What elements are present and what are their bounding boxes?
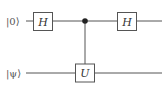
h-gate-2-label: H <box>121 16 132 29</box>
qubit-label-0: |0⟩ <box>6 16 20 28</box>
quantum-circuit: |0⟩ |ψ⟩ H U H <box>0 0 166 87</box>
h-gate-2: H <box>118 13 137 31</box>
qubit-label-1: |ψ⟩ <box>6 68 21 80</box>
h-gate-1: H <box>34 13 53 31</box>
control-dot-icon <box>82 18 88 24</box>
h-gate-1-label: H <box>37 16 48 29</box>
u-gate-label: U <box>80 67 90 80</box>
u-gate: U <box>76 64 95 82</box>
